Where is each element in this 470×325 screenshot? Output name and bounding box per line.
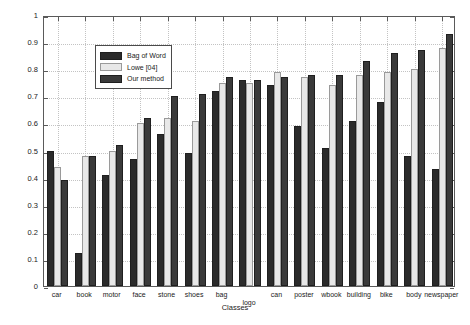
x-tick-mark	[332, 17, 333, 21]
bar-motor-2	[116, 145, 123, 286]
bar-wbook-1	[329, 85, 336, 286]
x-tick-mark	[387, 17, 388, 21]
y-tick-mark	[44, 17, 48, 18]
bar-bag-1	[219, 83, 226, 286]
bar-face-0	[130, 159, 137, 286]
y-tick-label: 0.5	[2, 148, 38, 156]
bar-car-2	[61, 180, 68, 286]
x-tick-label-bike: bike	[380, 291, 393, 298]
x-tick-label-shoes: shoes	[185, 291, 204, 298]
bar-newspaper-2	[446, 34, 453, 286]
y-tick-mark	[44, 125, 48, 126]
legend-item: Our method	[100, 74, 166, 84]
bar-poster-1	[301, 77, 308, 286]
y-tick-mark	[44, 288, 48, 289]
bar-face-2	[144, 118, 151, 286]
x-tick-mark	[85, 17, 86, 21]
y-tick-mark	[450, 288, 454, 289]
x-tick-mark	[140, 17, 141, 21]
bar-body-0	[404, 156, 411, 286]
y-tick-mark	[44, 71, 48, 72]
legend-item: Bag of Word	[100, 51, 166, 61]
bar-bag-2	[226, 77, 233, 286]
bar-building-0	[349, 121, 356, 286]
x-tick-label-bag: bag	[216, 291, 228, 298]
figure-canvas: F-measure 00.10.20.30.40.50.60.70.80.91 …	[0, 0, 470, 325]
y-tick-mark	[44, 98, 48, 99]
x-tick-mark	[277, 17, 278, 21]
bar-bike-0	[377, 102, 384, 286]
y-tick-label: 0.1	[2, 256, 38, 264]
bar-bike-1	[384, 72, 391, 286]
legend-item: Lowe [04]	[100, 62, 166, 72]
legend-label: Bag of Word	[127, 52, 166, 59]
bar-can-0	[267, 85, 274, 286]
bar-newspaper-0	[432, 169, 439, 286]
x-tick-mark	[113, 17, 114, 21]
y-tick-label: 0.9	[2, 39, 38, 47]
bar-shoes-1	[192, 121, 199, 286]
bar-body-1	[411, 69, 418, 286]
bar-bag-0	[212, 91, 219, 286]
x-tick-label-body: body	[406, 291, 421, 298]
legend-swatch-icon	[100, 75, 122, 83]
x-tick-mark	[223, 17, 224, 21]
legend-label: Lowe [04]	[127, 64, 157, 71]
y-tick-label: 0.2	[2, 229, 38, 237]
x-tick-mark	[168, 17, 169, 21]
x-tick-label-building: building	[347, 291, 371, 298]
plot-area: Bag of WordLowe [04]Our method	[43, 16, 455, 287]
bar-logo-0	[239, 80, 246, 286]
y-tick-label: 0.4	[2, 175, 38, 183]
x-tick-label-book: book	[77, 291, 92, 298]
bar-can-1	[274, 72, 281, 286]
bar-poster-2	[308, 75, 315, 286]
legend-swatch-icon	[100, 63, 122, 71]
bar-wbook-0	[322, 148, 329, 286]
x-tick-mark	[58, 17, 59, 21]
bar-face-1	[137, 123, 144, 286]
bar-building-1	[356, 75, 363, 286]
x-tick-mark	[250, 17, 251, 21]
bar-car-1	[54, 167, 61, 286]
bar-book-0	[75, 253, 82, 286]
bar-can-2	[281, 77, 288, 286]
bar-motor-1	[109, 151, 116, 287]
x-tick-mark	[195, 17, 196, 21]
x-tick-label-wbook: wbook	[321, 291, 341, 298]
x-tick-mark	[415, 17, 416, 21]
bar-newspaper-1	[439, 48, 446, 286]
y-tick-mark	[450, 17, 454, 18]
bar-car-0	[47, 151, 54, 287]
bar-body-2	[418, 50, 425, 286]
bar-logo-2	[254, 80, 261, 286]
bar-poster-0	[294, 126, 301, 286]
y-tick-label: 0.7	[2, 93, 38, 101]
y-tick-label: 0.6	[2, 120, 38, 128]
x-axis-title: Classes	[0, 303, 470, 312]
x-tick-label-newspaper: newspaper	[424, 291, 458, 298]
x-tick-mark	[360, 17, 361, 21]
legend-label: Our method	[127, 75, 164, 82]
bar-bike-2	[391, 53, 398, 286]
x-tick-mark	[305, 17, 306, 21]
bar-building-2	[363, 61, 370, 286]
bar-wbook-2	[336, 75, 343, 286]
legend: Bag of WordLowe [04]Our method	[95, 45, 172, 89]
y-tick-label: 0	[2, 283, 38, 291]
x-tick-label-poster: poster	[294, 291, 313, 298]
y-tick-label: 1	[2, 12, 38, 20]
bar-shoes-2	[199, 94, 206, 286]
bar-stone-0	[157, 134, 164, 286]
y-tick-mark	[44, 44, 48, 45]
bar-stone-2	[171, 96, 178, 286]
bar-motor-0	[102, 175, 109, 286]
x-tick-label-can: can	[271, 291, 282, 298]
x-tick-label-group: carbookmotorfacestoneshoesbaglogocanpost…	[43, 290, 455, 304]
x-tick-label-car: car	[52, 291, 62, 298]
x-tick-label-motor: motor	[103, 291, 121, 298]
x-tick-label-stone: stone	[158, 291, 175, 298]
bar-logo-1	[246, 83, 253, 286]
bar-book-1	[82, 156, 89, 286]
bar-book-2	[89, 156, 96, 286]
